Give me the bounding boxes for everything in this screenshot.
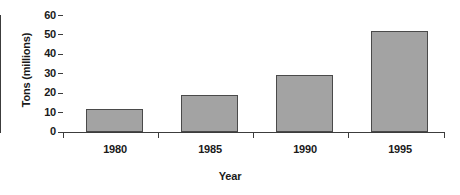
y-tick-label-0: 0 (28, 126, 56, 136)
y-axis-tick-labels: 60 50 40 30 20 10 0 (28, 10, 56, 136)
y-tick-mark-40 (58, 54, 63, 55)
x-tick-label-1985: 1985 (175, 143, 245, 155)
x-tick-label-1980: 1980 (80, 143, 150, 155)
y-tick-label-20: 20 (28, 87, 56, 97)
bar-chart: Tons (millions) 60 50 40 30 20 10 0 1980… (0, 0, 460, 195)
y-axis-line (0, 15, 1, 133)
x-tick-mark-1 (158, 133, 159, 138)
y-tick-mark-20 (58, 93, 63, 94)
y-tick-mark-10 (58, 112, 63, 113)
y-tick-mark-30 (58, 73, 63, 74)
bar-1995 (371, 31, 428, 132)
x-axis-title: Year (0, 170, 460, 182)
y-tick-label-30: 30 (28, 68, 56, 78)
bar-1980 (86, 109, 143, 132)
y-tick-label-50: 50 (28, 29, 56, 39)
y-tick-label-60: 60 (28, 10, 56, 20)
bar-1985 (181, 95, 238, 132)
bar-1990 (276, 75, 333, 132)
y-tick-label-40: 40 (28, 48, 56, 58)
x-tick-label-1995: 1995 (365, 143, 435, 155)
y-tick-mark-60 (58, 15, 63, 16)
x-tick-label-1990: 1990 (270, 143, 340, 155)
y-tick-mark-50 (58, 34, 63, 35)
x-tick-mark-2 (253, 133, 254, 138)
y-tick-label-10: 10 (28, 107, 56, 117)
x-tick-mark-3 (348, 133, 349, 138)
x-axis-line (63, 132, 445, 133)
x-tick-mark-0 (63, 133, 64, 138)
x-tick-mark-4 (444, 133, 445, 138)
